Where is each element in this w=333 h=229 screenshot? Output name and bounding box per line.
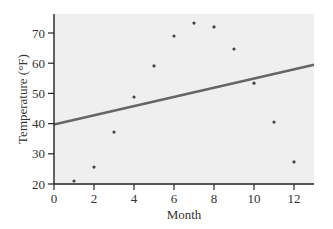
- y-tick-label: 30: [32, 146, 45, 161]
- x-axis-ticks: 024681012: [51, 184, 301, 206]
- y-tick-label: 40: [32, 116, 45, 131]
- data-point: [172, 34, 175, 37]
- x-tick-label: 2: [91, 191, 98, 206]
- x-tick-label: 10: [248, 191, 261, 206]
- x-tick-label: 4: [131, 191, 138, 206]
- x-tick-label: 6: [171, 191, 178, 206]
- y-tick-label: 60: [32, 56, 45, 71]
- data-point: [132, 95, 135, 98]
- y-axis-label: Temperature (°F): [15, 54, 30, 144]
- x-axis-label: Month: [167, 207, 202, 222]
- data-point: [232, 47, 235, 50]
- y-tick-label: 70: [32, 26, 45, 41]
- data-point: [192, 21, 195, 24]
- data-point: [152, 64, 155, 67]
- scatter-chart: 203040506070 024681012 Month Temperature…: [0, 0, 333, 229]
- data-point: [292, 160, 295, 163]
- y-tick-label: 50: [32, 86, 45, 101]
- data-point: [72, 179, 75, 182]
- y-axis-ticks: 203040506070: [32, 26, 54, 192]
- data-point: [212, 25, 215, 28]
- data-point: [272, 120, 275, 123]
- x-tick-label: 8: [211, 191, 218, 206]
- plot-area: [54, 14, 314, 184]
- x-tick-label: 12: [288, 191, 301, 206]
- data-point: [112, 130, 115, 133]
- data-point: [252, 82, 255, 85]
- data-point: [92, 165, 95, 168]
- y-tick-label: 20: [32, 177, 45, 192]
- x-tick-label: 0: [51, 191, 58, 206]
